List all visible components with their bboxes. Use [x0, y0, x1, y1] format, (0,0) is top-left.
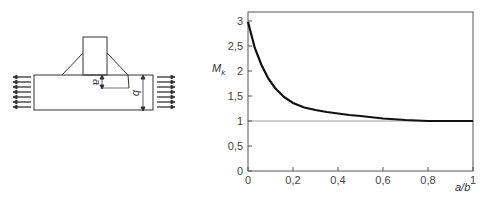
x-axis-label: a/b — [455, 181, 470, 193]
arrowhead-left — [13, 100, 17, 104]
arrowhead-right — [171, 85, 175, 89]
arrowhead-left — [13, 105, 17, 109]
crack-line — [128, 75, 129, 88]
y-tick-label: 1,5 — [228, 90, 243, 102]
plot-frame — [248, 12, 473, 171]
tension-arrows-left — [13, 75, 31, 109]
weld-right — [107, 53, 128, 75]
x-tick-label: 0 — [245, 174, 251, 186]
arrowhead-left — [13, 75, 17, 79]
dim-b-arrow-top — [141, 75, 145, 79]
y-tick-label: 0 — [237, 165, 243, 177]
y-tick-label: 1 — [237, 115, 243, 127]
arrowhead-right — [171, 95, 175, 99]
tension-arrows-right — [157, 75, 175, 109]
y-axis-label: Mk — [212, 62, 226, 77]
x-tick-label: 0,8 — [420, 174, 435, 186]
joint-diagram — [13, 37, 175, 111]
y-tick-label: 0,5 — [228, 140, 243, 152]
x-axis-ticks: 00,20,40,60,81 — [245, 167, 476, 186]
dim-b-label: b — [131, 90, 143, 96]
x-tick-label: 0,6 — [375, 174, 390, 186]
weld-left — [62, 53, 83, 75]
arrowhead-right — [171, 80, 175, 84]
arrowhead-left — [13, 85, 17, 89]
dim-a-arrow-bottom — [100, 85, 104, 89]
y-tick-label: 2 — [237, 65, 243, 77]
x-tick-label: 0,4 — [330, 174, 345, 186]
arrowhead-right — [171, 90, 175, 94]
arrowhead-left — [13, 80, 17, 84]
chart: 00,511,522,53 00,20,40,60,81 Mk a/b — [212, 12, 476, 193]
y-tick-label: 3 — [237, 15, 243, 27]
arrowhead-right — [171, 100, 175, 104]
dim-a-label: a — [91, 79, 103, 85]
mk-curve — [248, 22, 473, 121]
arrowhead-left — [13, 90, 17, 94]
y-tick-label: 2,5 — [228, 40, 243, 52]
x-tick-label: 0,2 — [285, 174, 300, 186]
figure: a b 00,511,522,53 00,20,40,60,81 Mk a/b — [0, 0, 487, 206]
arrowhead-left — [13, 95, 17, 99]
arrowhead-right — [171, 105, 175, 109]
attachment-plate — [83, 37, 107, 75]
arrowhead-right — [171, 75, 175, 79]
x-tick-label: 1 — [470, 174, 476, 186]
